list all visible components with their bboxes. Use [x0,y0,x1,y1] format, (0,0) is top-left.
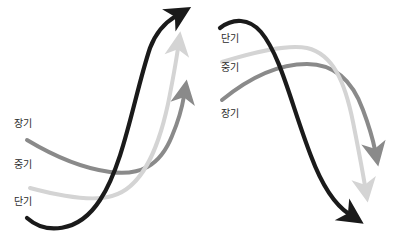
falling-trends-panel: 단기 중기 장기 [207,0,414,239]
curve-mid-term-falling [222,47,365,186]
label-short-term-right: 단기 [221,33,239,45]
curve-mid-term-rising [30,48,178,198]
curve-long-term-falling [222,64,375,150]
diagram-root: 장기 중기 단기 단기 중기 장기 [0,0,414,239]
rising-trends-panel: 장기 중기 단기 [0,0,207,239]
label-long-term-left: 장기 [14,118,32,130]
label-mid-term-left: 중기 [14,159,32,171]
label-short-term-left: 단기 [14,196,32,208]
label-long-term-right: 장기 [221,108,239,120]
label-mid-term-right: 중기 [221,62,239,74]
curve-short-term-rising [27,16,176,228]
